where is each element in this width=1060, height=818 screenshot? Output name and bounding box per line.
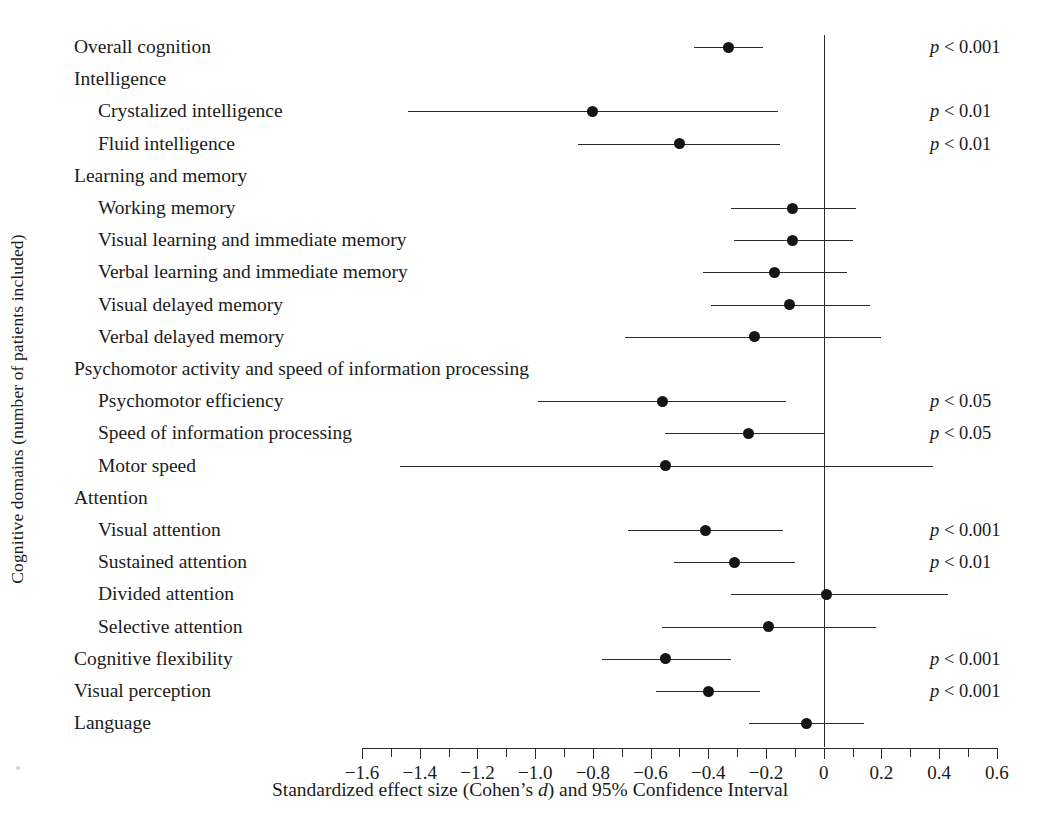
forest-row-label: Learning and memory [74, 160, 247, 192]
x-axis-tick-minor [737, 748, 738, 757]
p-value-label: p < 0.01 [930, 546, 991, 578]
p-value-label: p < 0.05 [930, 385, 991, 417]
x-axis-tick-major [824, 748, 825, 759]
x-axis-tick-minor [679, 748, 680, 757]
x-axis-tick-major [362, 748, 363, 759]
forest-row: Divided attention [0, 578, 1060, 610]
x-axis-tick-major [939, 748, 940, 759]
x-axis-tick-major [593, 748, 594, 759]
p-value-label: p < 0.05 [930, 417, 991, 449]
x-axis-title: Standardized effect size (Cohen’s d) and… [0, 779, 1060, 801]
x-axis-tick-minor [910, 748, 911, 757]
forest-row: Attention [0, 482, 1060, 514]
x-axis-tick-major [881, 748, 882, 759]
forest-row: Psychomotor efficiencyp < 0.05 [0, 385, 1060, 417]
forest-row: Motor speed [0, 450, 1060, 482]
forest-row-label: Verbal delayed memory [98, 321, 284, 353]
effect-size-point [784, 299, 795, 310]
forest-row-label: Verbal learning and immediate memory [98, 256, 408, 288]
x-axis-tick-major [651, 748, 652, 759]
x-axis-tick-major [766, 748, 767, 759]
effect-size-point [801, 718, 812, 729]
x-axis-title-symbol: d [538, 779, 548, 800]
p-value-label: p < 0.01 [930, 128, 991, 160]
confidence-interval-line [731, 594, 947, 595]
effect-size-point [743, 428, 754, 439]
x-axis-tick-minor [968, 748, 969, 757]
forest-row: Visual delayed memory [0, 289, 1060, 321]
forest-row-label: Psychomotor efficiency [98, 385, 283, 417]
forest-row: Visual learning and immediate memory [0, 224, 1060, 256]
p-value-label: p < 0.01 [930, 95, 991, 127]
forest-row-label: Psychomotor activity and speed of inform… [74, 353, 529, 385]
forest-row-label: Cognitive flexibility [74, 643, 233, 675]
x-axis-tick-minor [449, 748, 450, 757]
plot-area: Overall cognitionp < 0.001IntelligenceCr… [0, 0, 1060, 818]
x-axis-tick-minor [795, 748, 796, 757]
forest-row: Psychomotor activity and speed of inform… [0, 353, 1060, 385]
forest-row: Verbal delayed memory [0, 321, 1060, 353]
forest-row-label: Visual learning and immediate memory [98, 224, 407, 256]
forest-plot-figure: Cognitive domains (number of patients in… [0, 0, 1060, 818]
forest-row: Crystalized intelligencep < 0.01 [0, 95, 1060, 127]
forest-row-label: Intelligence [74, 63, 166, 95]
x-axis-tick-major [535, 748, 536, 759]
x-axis-tick-minor [506, 748, 507, 757]
forest-row-label: Overall cognition [74, 31, 211, 63]
forest-row-label: Language [74, 707, 151, 739]
forest-row-label: Visual attention [98, 514, 221, 546]
forest-row: Fluid intelligencep < 0.01 [0, 128, 1060, 160]
effect-size-point [821, 589, 832, 600]
forest-row: Selective attention [0, 611, 1060, 643]
forest-row: Language [0, 707, 1060, 739]
forest-row-label: Attention [74, 482, 148, 514]
x-axis-title-post: ) and 95% Confidence Interval [548, 779, 788, 800]
p-value-label: p < 0.001 [930, 643, 1001, 675]
effect-size-point [657, 396, 668, 407]
forest-row-label: Visual perception [74, 675, 211, 707]
forest-row-label: Speed of information processing [98, 417, 352, 449]
effect-size-point [700, 525, 711, 536]
forest-row-label: Selective attention [98, 611, 243, 643]
forest-row-label: Motor speed [98, 450, 196, 482]
p-value-label: p < 0.001 [930, 675, 1001, 707]
effect-size-point [703, 686, 714, 697]
forest-row: Learning and memory [0, 160, 1060, 192]
forest-row-label: Fluid intelligence [98, 128, 235, 160]
forest-row-label: Sustained attention [98, 546, 247, 578]
effect-size-point [749, 331, 760, 342]
x-axis-tick-major [420, 748, 421, 759]
p-value-label: p < 0.001 [930, 514, 1001, 546]
x-axis-tick-minor [853, 748, 854, 757]
effect-size-point [723, 42, 734, 53]
x-axis-tick-minor [391, 748, 392, 757]
x-axis-tick-minor [564, 748, 565, 757]
forest-row: Visual attentionp < 0.001 [0, 514, 1060, 546]
forest-row: Visual perceptionp < 0.001 [0, 675, 1060, 707]
forest-row: Speed of information processingp < 0.05 [0, 417, 1060, 449]
effect-size-point [763, 621, 774, 632]
forest-row: Cognitive flexibilityp < 0.001 [0, 643, 1060, 675]
x-axis-tick-major [477, 748, 478, 759]
forest-row: Verbal learning and immediate memory [0, 256, 1060, 288]
forest-row: Overall cognitionp < 0.001 [0, 31, 1060, 63]
x-axis-tick-major [997, 748, 998, 759]
forest-row-label: Visual delayed memory [98, 289, 283, 321]
forest-row-label: Divided attention [98, 578, 234, 610]
effect-size-point [787, 235, 798, 246]
x-axis-title-pre: Standardized effect size (Cohen’s [272, 779, 538, 800]
page-artifact-dot [16, 766, 20, 770]
forest-row: Sustained attentionp < 0.01 [0, 546, 1060, 578]
effect-size-point [660, 460, 671, 471]
effect-size-point [769, 267, 780, 278]
forest-row-label: Crystalized intelligence [98, 95, 283, 127]
forest-row: Intelligence [0, 63, 1060, 95]
forest-row: Working memory [0, 192, 1060, 224]
p-value-label: p < 0.001 [930, 31, 1001, 63]
effect-size-point [787, 203, 798, 214]
effect-size-point [729, 557, 740, 568]
x-axis-tick-minor [622, 748, 623, 757]
x-axis-tick-major [708, 748, 709, 759]
effect-size-point [674, 138, 685, 149]
forest-row-label: Working memory [98, 192, 236, 224]
